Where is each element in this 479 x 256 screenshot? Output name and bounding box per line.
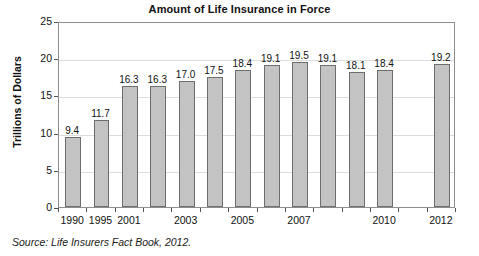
- bar-value-label: 18.4: [368, 58, 400, 69]
- x-tick-mark: [171, 208, 172, 212]
- bar-value-label: 19.1: [311, 53, 343, 64]
- x-tick-label: 2005: [222, 214, 262, 226]
- bar: [349, 72, 365, 207]
- x-tick-mark: [58, 208, 59, 212]
- bar: [264, 65, 280, 207]
- x-tick-mark: [257, 208, 258, 212]
- bar: [179, 81, 195, 207]
- bar: [235, 70, 251, 207]
- bar: [292, 62, 308, 207]
- bar: [65, 137, 81, 207]
- x-tick-mark: [86, 208, 87, 212]
- bar-value-label: 19.2: [425, 52, 457, 63]
- bar-value-label: 16.3: [113, 74, 145, 85]
- chart-figure: Amount of Life Insurance in Force Trilli…: [0, 0, 479, 256]
- bar: [150, 86, 166, 207]
- x-tick-mark: [228, 208, 229, 212]
- x-tick-mark: [313, 208, 314, 212]
- y-axis-title: Trillions of Dollars: [11, 38, 23, 166]
- x-tick-mark: [115, 208, 116, 212]
- x-tick-mark: [200, 208, 201, 212]
- gridline: [59, 172, 454, 173]
- y-tick-label: 10: [24, 127, 52, 139]
- y-tick-label: 15: [24, 89, 52, 101]
- bar: [377, 70, 393, 207]
- bar: [434, 64, 450, 207]
- x-tick-mark: [342, 208, 343, 212]
- bar-value-label: 18.4: [226, 58, 258, 69]
- x-tick-mark: [398, 208, 399, 212]
- y-tick-label: 25: [24, 15, 52, 27]
- chart-title: Amount of Life Insurance in Force: [0, 3, 479, 15]
- x-tick-label: 2012: [421, 214, 461, 226]
- bar-value-label: 16.3: [141, 74, 173, 85]
- x-tick-label: 2007: [279, 214, 319, 226]
- bar-value-label: 11.7: [85, 108, 117, 119]
- source-note: Source: Life Insurers Fact Book, 2012.: [12, 236, 191, 248]
- bar-value-label: 19.1: [255, 53, 287, 64]
- x-tick-mark: [143, 208, 144, 212]
- y-tick-label: 5: [24, 164, 52, 176]
- bar-value-label: 9.4: [56, 125, 88, 136]
- bar: [207, 77, 223, 207]
- x-tick-mark: [427, 208, 428, 212]
- x-tick-label: 2003: [166, 214, 206, 226]
- bar-value-label: 19.5: [283, 50, 315, 61]
- bar-value-label: 17.5: [198, 65, 230, 76]
- bar-value-label: 18.1: [340, 60, 372, 71]
- x-tick-label: 2010: [364, 214, 404, 226]
- x-tick-mark: [455, 208, 456, 212]
- y-tick-label: 20: [24, 52, 52, 64]
- gridline: [59, 135, 454, 136]
- x-tick-mark: [370, 208, 371, 212]
- y-tick-label: 0: [24, 201, 52, 213]
- bar: [94, 120, 110, 207]
- plot-area: [58, 22, 455, 208]
- x-tick-mark: [285, 208, 286, 212]
- x-tick-label: 2001: [109, 214, 149, 226]
- bar-value-label: 17.0: [170, 69, 202, 80]
- bar: [122, 86, 138, 207]
- bar: [320, 65, 336, 207]
- gridline: [59, 97, 454, 98]
